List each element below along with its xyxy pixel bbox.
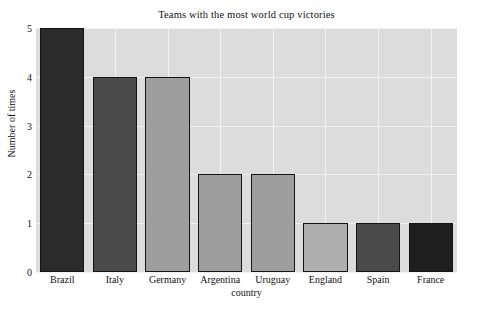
bar-uruguay bbox=[251, 174, 295, 272]
x-tick-label-uruguay: Uruguay bbox=[255, 274, 290, 285]
y-axis-line bbox=[35, 28, 36, 272]
bar-france bbox=[409, 223, 453, 272]
y-tick-label: 5 bbox=[2, 23, 32, 34]
bar-england bbox=[303, 223, 347, 272]
y-axis-title: Number of times bbox=[6, 64, 17, 184]
x-axis-tick-labels: BrazilItalyGermanyArgentinaUruguayEnglan… bbox=[36, 274, 457, 288]
x-tick-label-brazil: Brazil bbox=[50, 274, 74, 285]
bar-spain bbox=[356, 223, 400, 272]
bar-brazil bbox=[40, 28, 84, 272]
bar-italy bbox=[93, 77, 137, 272]
bar-chart-figure: Teams with the most world cup victories … bbox=[0, 0, 479, 313]
chart-title: Teams with the most world cup victories bbox=[36, 9, 457, 20]
x-tick-label-france: France bbox=[417, 274, 444, 285]
x-tick-label-england: England bbox=[309, 274, 342, 285]
x-tick-label-spain: Spain bbox=[367, 274, 390, 285]
y-tick-label: 0 bbox=[2, 267, 32, 278]
plot-area bbox=[36, 28, 457, 272]
gridline-horizontal bbox=[36, 28, 457, 29]
bar-germany bbox=[145, 77, 189, 272]
gridline-horizontal bbox=[36, 272, 457, 273]
bar-argentina bbox=[198, 174, 242, 272]
y-tick-label: 1 bbox=[2, 218, 32, 229]
x-tick-label-germany: Germany bbox=[149, 274, 186, 285]
x-tick-label-argentina: Argentina bbox=[200, 274, 240, 285]
x-axis-title: country bbox=[36, 287, 457, 298]
x-tick-label-italy: Italy bbox=[106, 274, 124, 285]
